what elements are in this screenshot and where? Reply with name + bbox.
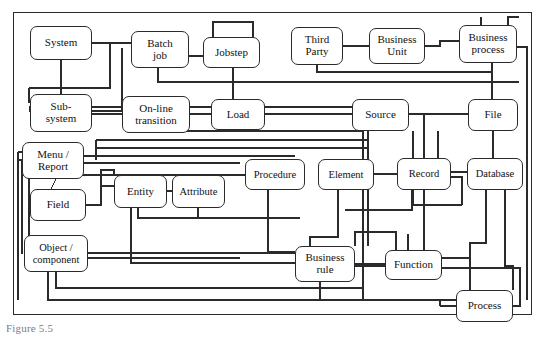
node-label: Procedure (254, 169, 297, 180)
node-label: Element (329, 169, 364, 180)
node-function[interactable]: Function (385, 250, 442, 280)
node-label: Function (394, 259, 433, 271)
node-label: Entity (127, 186, 154, 198)
node-label: Third Party (305, 34, 329, 58)
node-element[interactable]: Element (318, 159, 374, 190)
node-jobstep[interactable]: Jobstep (203, 37, 260, 68)
node-business-process[interactable]: Business process (459, 25, 517, 63)
node-label: Load (227, 109, 250, 121)
node-business-unit[interactable]: Business Unit (369, 28, 425, 64)
node-label: Menu / Report (37, 149, 68, 173)
node-label: On-line transition (135, 103, 177, 127)
node-load[interactable]: Load (211, 99, 265, 130)
node-menu-report[interactable]: Menu / Report (22, 142, 84, 179)
node-attribute[interactable]: Attribute (172, 175, 225, 208)
node-record[interactable]: Record (397, 158, 451, 190)
node-label: Sub- system (46, 101, 77, 125)
node-label: Jobstep (215, 47, 248, 59)
node-business-rule[interactable]: Business rule (295, 246, 355, 282)
node-object-component[interactable]: Object / component (24, 235, 88, 272)
node-database[interactable]: Database (467, 158, 523, 190)
node-file[interactable]: File (468, 99, 518, 131)
node-label: Field (47, 199, 70, 211)
figure-caption: Figure 5.5 (6, 322, 53, 334)
node-label: Source (365, 109, 396, 121)
node-label: Business process (468, 32, 507, 56)
node-label: Object / component (33, 242, 80, 265)
node-label: Database (476, 168, 514, 179)
node-label: Attribute (180, 186, 218, 197)
node-third-party[interactable]: Third Party (291, 27, 343, 65)
node-label: Batch job (147, 38, 173, 62)
node-online-transition[interactable]: On-line transition (122, 96, 190, 133)
node-entity[interactable]: Entity (114, 175, 167, 208)
node-label: Business rule (305, 252, 344, 276)
node-label: Business Unit (377, 34, 416, 58)
node-field[interactable]: Field (30, 189, 86, 221)
node-label: Process (468, 300, 502, 312)
node-procedure[interactable]: Procedure (245, 159, 305, 190)
node-system[interactable]: System (30, 26, 92, 60)
node-label: System (45, 37, 77, 49)
node-process[interactable]: Process (456, 290, 513, 322)
node-label: File (484, 109, 501, 121)
node-source[interactable]: Source (352, 99, 409, 131)
diagram-canvas: System Batch job Jobstep Third Party Bus… (0, 0, 545, 337)
node-subsystem[interactable]: Sub- system (30, 94, 92, 132)
node-batch-job[interactable]: Batch job (131, 31, 189, 68)
node-label: Record (409, 168, 439, 179)
